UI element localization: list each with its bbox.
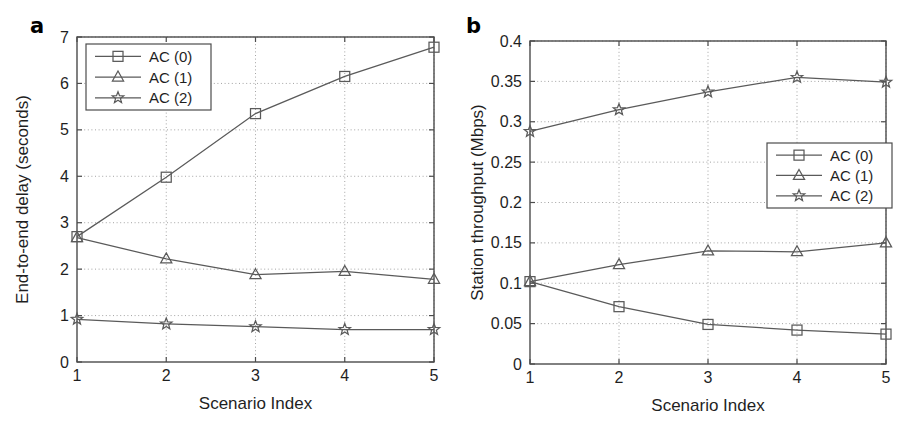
x-axis-title: Scenario Index (651, 396, 765, 415)
series-ac-2- (71, 313, 439, 334)
figure-two-panel-chart: a 1234501234567Scenario IndexEnd-to-end … (0, 0, 922, 423)
y-tick-label: 4 (60, 168, 69, 185)
x-tick-label: 2 (615, 369, 624, 386)
legend-label: AC (1) (149, 69, 192, 86)
y-tick-label: 2 (60, 261, 69, 278)
y-tick-label: 0 (60, 354, 69, 371)
y-tick-label: 0.35 (491, 73, 522, 90)
y-tick-label: 0.4 (500, 33, 522, 50)
y-tick-label: 3 (60, 214, 69, 231)
y-tick-label: 7 (60, 29, 69, 46)
y-axis-title: End-to-end delay (seconds) (13, 95, 32, 304)
x-tick-label: 3 (704, 369, 713, 386)
x-tick-label: 2 (162, 367, 171, 384)
series-line (77, 238, 434, 280)
y-tick-label: 0.3 (500, 113, 522, 130)
panel-a-plot: 1234501234567Scenario IndexEnd-to-end de… (0, 0, 461, 423)
legend-label: AC (2) (830, 187, 873, 204)
x-tick-label: 1 (526, 369, 535, 386)
x-axis-title: Scenario Index (199, 394, 313, 413)
legend-label: AC (0) (830, 147, 873, 164)
y-tick-label: 0.1 (500, 275, 522, 292)
y-tick-label: 5 (60, 121, 69, 138)
legend-label: AC (2) (149, 89, 192, 106)
x-tick-label: 5 (430, 367, 439, 384)
y-tick-label: 0.2 (500, 194, 522, 211)
y-tick-label: 1 (60, 307, 69, 324)
panel-b: b 1234500.050.10.150.20.250.30.350.4Scen… (461, 0, 922, 423)
x-tick-label: 3 (251, 367, 260, 384)
panel-a: a 1234501234567Scenario IndexEnd-to-end … (0, 0, 461, 423)
y-tick-label: 0.05 (491, 315, 522, 332)
x-tick-label: 4 (793, 369, 802, 386)
y-tick-label: 6 (60, 75, 69, 92)
panel-b-plot: 1234500.050.10.150.20.250.30.350.4Scenar… (461, 0, 922, 423)
x-tick-label: 4 (340, 367, 349, 384)
x-tick-label: 5 (882, 369, 891, 386)
legend-label: AC (0) (149, 48, 192, 65)
y-tick-label: 0 (513, 356, 522, 373)
y-tick-label: 0.25 (491, 154, 522, 171)
legend-label: AC (1) (830, 167, 873, 184)
data-point-marker (339, 265, 350, 275)
x-tick-label: 1 (73, 367, 82, 384)
y-tick-label: 0.15 (491, 234, 522, 251)
y-axis-title: Station throughput (Mbps) (468, 104, 487, 301)
